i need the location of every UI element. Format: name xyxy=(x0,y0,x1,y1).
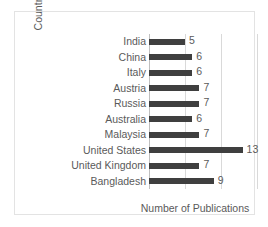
bar-row: 13 xyxy=(149,143,257,159)
bar-row: 7 xyxy=(149,158,257,174)
category-label: United Kingdom xyxy=(26,158,146,174)
gridline-15 xyxy=(257,34,258,189)
category-label: Bangladesh xyxy=(26,174,146,190)
bar xyxy=(149,54,192,60)
bar-value-label: 6 xyxy=(196,49,202,65)
category-label: Austria xyxy=(26,81,146,97)
bar-value-label: 6 xyxy=(196,111,202,127)
bar xyxy=(149,178,214,184)
bar-row: 9 xyxy=(149,174,257,190)
bar xyxy=(149,132,199,138)
x-axis-title: Number of Publications xyxy=(125,202,265,214)
bar-value-label: 6 xyxy=(196,64,202,80)
category-label: Malaysia xyxy=(26,127,146,143)
bar-row: 6 xyxy=(149,65,257,81)
bar-row: 7 xyxy=(149,81,257,97)
chart-frame: Country IndiaChinaItalyAustriaRussiaAust… xyxy=(14,11,255,215)
category-label: Russia xyxy=(26,96,146,112)
bar-row: 7 xyxy=(149,96,257,112)
bar xyxy=(149,147,243,153)
category-label: Australia xyxy=(26,112,146,128)
bar-row: 5 xyxy=(149,34,257,50)
category-axis-labels: IndiaChinaItalyAustriaRussiaAustraliaMal… xyxy=(20,34,146,189)
bar-value-label: 7 xyxy=(203,157,209,173)
category-label: United States xyxy=(26,143,146,159)
bar-row: 6 xyxy=(149,112,257,128)
bar xyxy=(149,163,199,169)
bar xyxy=(149,70,192,76)
bar-value-label: 7 xyxy=(203,80,209,96)
category-label: India xyxy=(26,34,146,50)
bar-value-label: 7 xyxy=(203,95,209,111)
bar-value-label: 5 xyxy=(189,33,195,49)
bar xyxy=(149,85,199,91)
bar-value-label: 9 xyxy=(218,173,224,189)
bar xyxy=(149,39,185,45)
bar xyxy=(149,116,192,122)
bar-value-label: 13 xyxy=(247,142,259,158)
bar-row: 6 xyxy=(149,50,257,66)
category-label: China xyxy=(26,50,146,66)
plot-area: 56677671379 xyxy=(149,34,257,189)
bar-value-label: 7 xyxy=(203,126,209,142)
category-label: Italy xyxy=(26,65,146,81)
bar-row: 7 xyxy=(149,127,257,143)
bar xyxy=(149,101,199,107)
